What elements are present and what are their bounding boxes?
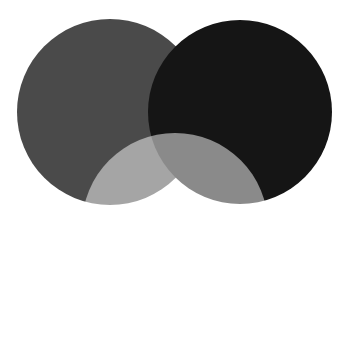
venn-diagram-figure (0, 0, 351, 337)
venn-diagram-canvas (0, 0, 351, 337)
venn-circle-bottom[interactable] (82, 133, 268, 319)
